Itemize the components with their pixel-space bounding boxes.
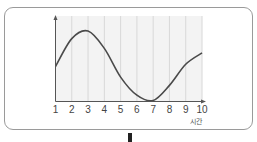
line-chart: 12345678910 시간 [0,0,257,142]
x-tick-label: 2 [69,104,75,115]
x-tick-label: 10 [196,104,208,115]
x-tick-labels: 12345678910 [53,104,208,115]
x-tick-label: 9 [183,104,189,115]
x-tick-label: 4 [102,104,108,115]
x-axis-arrow-icon [201,100,206,104]
x-tick-label: 3 [85,104,91,115]
x-tick-label: 5 [118,104,124,115]
x-axis-label: 시간 [190,117,203,126]
x-tick-label: 7 [150,104,156,115]
cursor-marker [128,133,132,142]
x-tick-label: 1 [53,104,59,115]
x-tick-label: 6 [134,104,140,115]
x-tick-label: 8 [167,104,173,115]
